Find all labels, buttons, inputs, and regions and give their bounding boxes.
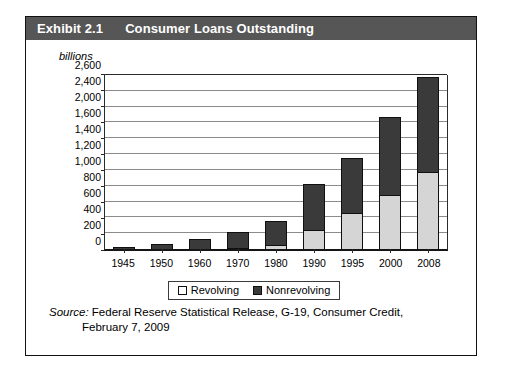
x-axis-tick-label: 1970 <box>219 257 257 269</box>
x-axis-tick-mark <box>200 249 201 253</box>
x-axis: 194519501960197019801990199520002008 <box>104 257 448 269</box>
source-line-1: Federal Reserve Statistical Release, G-1… <box>89 306 403 318</box>
y-axis-tick-label: 1,400 <box>55 124 101 134</box>
bar-slot <box>181 75 219 249</box>
plot-area <box>104 75 448 251</box>
x-axis-tick-label: 1995 <box>333 257 371 269</box>
bar-slot <box>219 75 257 249</box>
y-axis-tick-label: 2,400 <box>55 76 101 86</box>
y-axis-tick-label: 1,600 <box>55 108 101 118</box>
y-axis-tick-label: 800 <box>55 172 101 182</box>
x-axis-tick-mark <box>428 249 429 253</box>
stacked-bar[interactable] <box>189 239 211 249</box>
stacked-bar[interactable] <box>303 184 325 249</box>
legend-label-nonrevolving: Nonrevolving <box>266 284 330 296</box>
stacked-bar[interactable] <box>265 221 287 249</box>
bar-segment-revolving[interactable] <box>417 172 439 249</box>
stacked-bar[interactable] <box>341 158 363 249</box>
bar-segment-revolving[interactable] <box>379 195 401 249</box>
stacked-bar[interactable] <box>227 232 249 249</box>
x-axis-tick-mark <box>314 249 315 253</box>
y-axis-tick-label: 600 <box>55 188 101 198</box>
x-axis-tick-label: 1945 <box>104 257 142 269</box>
exhibit-number: Exhibit 2.1 <box>37 21 103 36</box>
bar-segment-revolving[interactable] <box>341 213 363 249</box>
bar-slot <box>409 75 447 249</box>
exhibit-body: billions 02004006008001,0001,2001,4001,6… <box>26 40 476 356</box>
bar-segment-nonrevolving[interactable] <box>189 239 211 249</box>
y-axis-tick-label: 1,000 <box>55 156 101 166</box>
source-line-2: February 7, 2009 <box>82 320 462 335</box>
legend-entry-revolving: Revolving <box>178 284 239 296</box>
legend-box: Revolving Nonrevolving <box>168 281 341 300</box>
y-axis-tick-label: 0 <box>55 236 101 246</box>
y-axis-tick-label: 1,200 <box>55 140 101 150</box>
bar-segment-nonrevolving[interactable] <box>227 232 249 248</box>
bar-slot <box>143 75 181 249</box>
stacked-bar[interactable] <box>417 77 439 249</box>
x-axis-tick-mark <box>162 249 163 253</box>
x-axis-tick-label: 2000 <box>372 257 410 269</box>
x-axis-tick-label: 1980 <box>257 257 295 269</box>
exhibit-title: Consumer Loans Outstanding <box>125 21 314 36</box>
bar-slot <box>295 75 333 249</box>
x-axis-tick-label: 1960 <box>180 257 218 269</box>
bar-slot <box>105 75 143 249</box>
legend-label-revolving: Revolving <box>191 284 239 296</box>
bar-group <box>105 75 447 249</box>
x-axis-tick-mark <box>352 249 353 253</box>
bar-slot <box>333 75 371 249</box>
bar-segment-nonrevolving[interactable] <box>303 184 325 230</box>
y-axis-tick-label: 2,000 <box>55 92 101 102</box>
source-label: Source: <box>49 306 89 318</box>
y-axis-tick-label: 200 <box>55 220 101 230</box>
source-note: Source: Federal Reserve Statistical Rele… <box>49 305 462 335</box>
exhibit-card: Exhibit 2.1 Consumer Loans Outstanding b… <box>25 16 477 356</box>
x-axis-tick-label: 2008 <box>410 257 448 269</box>
x-axis-tick-mark <box>276 249 277 253</box>
x-axis-tick-label: 1990 <box>295 257 333 269</box>
legend-swatch-nonrevolving-icon <box>253 286 262 295</box>
y-axis: 02004006008001,0001,2001,4001,6002,0002,… <box>52 75 101 251</box>
bar-slot <box>257 75 295 249</box>
bar-slot <box>371 75 409 249</box>
bar-segment-nonrevolving[interactable] <box>379 117 401 195</box>
legend-entry-nonrevolving: Nonrevolving <box>253 284 330 296</box>
chart-area: 02004006008001,0001,2001,4001,6002,0002,… <box>52 69 456 294</box>
bar-segment-nonrevolving[interactable] <box>341 158 363 213</box>
y-axis-tick-label: 2,600 <box>55 60 101 70</box>
x-axis-tick-mark <box>124 249 125 253</box>
chart-legend: Revolving Nonrevolving <box>52 281 456 300</box>
y-axis-tick-label: 400 <box>55 204 101 214</box>
bar-segment-nonrevolving[interactable] <box>265 221 287 245</box>
x-axis-tick-label: 1950 <box>142 257 180 269</box>
legend-swatch-revolving-icon <box>178 286 187 295</box>
bar-segment-revolving[interactable] <box>303 230 325 249</box>
stacked-bar[interactable] <box>379 117 401 249</box>
x-axis-tick-mark <box>390 249 391 253</box>
x-axis-tick-mark <box>238 249 239 253</box>
bar-segment-nonrevolving[interactable] <box>417 77 439 172</box>
exhibit-title-bar: Exhibit 2.1 Consumer Loans Outstanding <box>26 17 476 40</box>
